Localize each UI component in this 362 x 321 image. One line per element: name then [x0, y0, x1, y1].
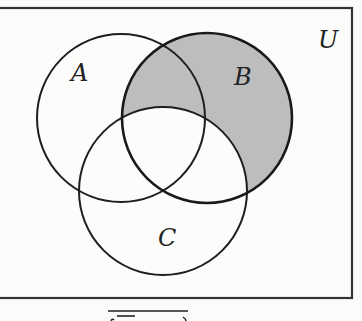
set-c-label: C: [158, 224, 176, 252]
universe-label: U: [318, 26, 339, 54]
venn-diagram-figure: A B C U: [0, 0, 362, 321]
venn-diagram: A B C U: [0, 0, 362, 321]
bottom-formula-fragment: [108, 311, 188, 321]
set-b-label: B: [233, 63, 252, 91]
set-a-label: A: [69, 59, 88, 87]
